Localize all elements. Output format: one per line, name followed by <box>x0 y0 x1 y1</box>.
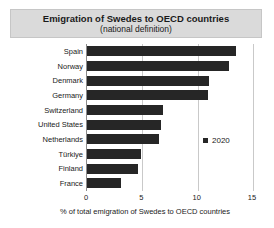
bar-row: Spain <box>0 44 252 59</box>
bar-track <box>86 88 252 103</box>
category-label: Türkiye <box>0 150 86 159</box>
legend-label: 2020 <box>212 136 230 145</box>
bar-rows: SpainNorwayDenmarkGermanySwitzerlandUnit… <box>0 44 252 191</box>
category-label: Finland <box>0 164 86 173</box>
chart-title: Emigration of Swedes to OECD countries <box>11 13 261 24</box>
chart-subtitle: (national definition) <box>11 24 261 34</box>
bar <box>87 105 163 115</box>
bar-track <box>86 44 252 59</box>
bar-track <box>86 59 252 74</box>
bar-track <box>86 162 252 177</box>
x-tick-label: 10 <box>192 193 200 202</box>
bar <box>87 134 159 144</box>
x-tick-label: 15 <box>248 193 256 202</box>
bar-track <box>86 147 252 162</box>
x-tick-label: 0 <box>84 193 88 202</box>
bar-row: France <box>0 176 252 191</box>
chart-title-box: Emigration of Swedes to OECD countries (… <box>10 9 262 38</box>
bar-row: Türkiye <box>0 147 252 162</box>
bar <box>87 164 138 174</box>
bar-track <box>86 73 252 88</box>
category-label: Germany <box>0 91 86 100</box>
bar-row: Switzerland <box>0 103 252 118</box>
bar <box>87 149 141 159</box>
gridline <box>253 44 254 191</box>
bar-track <box>86 103 252 118</box>
legend: 2020 <box>203 136 230 145</box>
chart-window: Emigration of Swedes to OECD countries (… <box>0 0 274 228</box>
bar <box>87 90 208 100</box>
x-axis-label: % of total emigration of Swedes to OECD … <box>16 207 274 216</box>
bar <box>87 178 121 188</box>
bar <box>87 76 209 86</box>
bar-row: Finland <box>0 162 252 177</box>
category-label: Norway <box>0 62 86 71</box>
bar <box>87 46 236 56</box>
bar-row: Denmark <box>0 73 252 88</box>
bar-track <box>86 176 252 191</box>
category-label: Denmark <box>0 76 86 85</box>
category-label: United States <box>0 120 86 129</box>
category-label: Netherlands <box>0 135 86 144</box>
category-label: Switzerland <box>0 106 86 115</box>
square-swatch-icon <box>203 138 208 143</box>
bar-row: Norway <box>0 59 252 74</box>
bar <box>87 120 161 130</box>
bar <box>87 61 229 71</box>
category-label: France <box>0 179 86 188</box>
category-label: Spain <box>0 47 86 56</box>
bar-row: United States <box>0 117 252 132</box>
x-ticks: 051015 <box>86 193 252 203</box>
bar-row: Germany <box>0 88 252 103</box>
x-tick-label: 5 <box>139 193 143 202</box>
bar-track <box>86 117 252 132</box>
